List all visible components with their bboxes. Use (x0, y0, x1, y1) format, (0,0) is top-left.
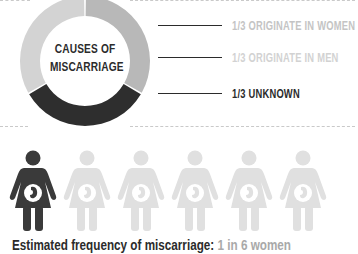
pregnant-woman-icon (60, 150, 114, 232)
legend-item-unknown: 1/3 UNKNOWN (158, 86, 326, 101)
pregnant-woman-icon (276, 150, 330, 232)
leader-line (158, 57, 222, 58)
center-title-line1: CAUSES OF (50, 40, 120, 58)
pregnant-woman-icon-highlighted (6, 150, 60, 232)
top-divider-right (130, 0, 355, 1)
pregnant-woman-icon (114, 150, 168, 232)
pictogram-row (6, 150, 330, 232)
leader-line (158, 25, 222, 26)
pregnant-woman-icon (168, 150, 222, 232)
caption-value: 1 in 6 women (217, 236, 290, 253)
pregnant-woman-icon (222, 150, 276, 232)
legend-label: 1/3 ORIGINATE IN MEN (232, 50, 339, 65)
legend-item-women: 1/3 ORIGINATE IN WOMEN (158, 18, 358, 33)
caption-label: Estimated frequency of miscarriage: (12, 236, 214, 253)
donut-segment (29, 84, 141, 126)
leader-line (158, 93, 222, 94)
legend-item-men: 1/3 ORIGINATE IN MEN (158, 50, 358, 65)
legend-label: 1/3 ORIGINATE IN WOMEN (232, 18, 355, 33)
frequency-caption: Estimated frequency of miscarriage: 1 in… (12, 236, 291, 253)
center-title-line2: MISCARRIAGE (50, 58, 120, 76)
legend-label: 1/3 UNKNOWN (232, 86, 300, 101)
middle-divider-right (130, 126, 355, 127)
donut-center-title: CAUSES OF MISCARRIAGE (50, 40, 120, 76)
